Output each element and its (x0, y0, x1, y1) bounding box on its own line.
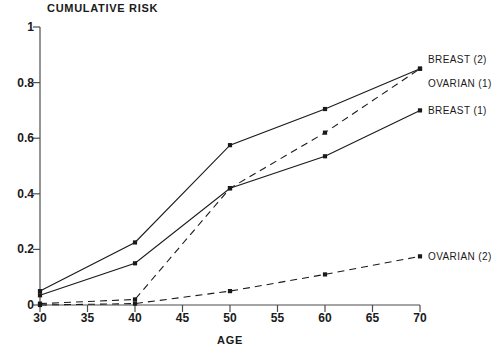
axes (33, 27, 420, 312)
data-point-marker (228, 289, 232, 293)
y-tick-label: 0.2 (0, 242, 34, 256)
y-tick-label: 0.8 (0, 76, 34, 90)
chart-figure: CUMULATIVE RISK 00.20.40.60.81 303540455… (0, 0, 499, 356)
data-point-marker (133, 240, 137, 244)
data-point-marker (38, 293, 42, 297)
x-tick-label: 35 (68, 311, 108, 325)
x-tick-label: 40 (115, 311, 155, 325)
y-tick-label: 0 (0, 298, 34, 312)
data-point-marker (133, 302, 137, 306)
data-point-marker (133, 297, 137, 301)
y-tick-label: 1 (0, 20, 34, 34)
data-point-marker (323, 154, 327, 158)
data-point-marker (323, 272, 327, 276)
data-point-marker (418, 254, 422, 258)
data-point-marker (418, 108, 422, 112)
data-point-marker (228, 143, 232, 147)
y-tick-label: 0.6 (0, 131, 34, 145)
series-line (40, 69, 420, 291)
x-tick-label: 30 (20, 311, 60, 325)
x-tick-label: 45 (163, 311, 203, 325)
data-point-marker (133, 261, 137, 265)
data-point-marker (228, 186, 232, 190)
y-tick-label: 0.4 (0, 187, 34, 201)
x-tick-label: 50 (210, 311, 250, 325)
data-point-marker (323, 107, 327, 111)
series-label-ovarian-2: OVARIAN (2) (428, 251, 492, 262)
series-markers (38, 67, 422, 308)
data-point-marker (38, 303, 42, 307)
x-tick-label: 70 (400, 311, 440, 325)
data-point-marker (38, 289, 42, 293)
x-tick-label: 65 (353, 311, 393, 325)
data-point-marker (323, 131, 327, 135)
series-line (40, 256, 420, 305)
x-tick-label: 55 (258, 311, 298, 325)
plot-area (0, 0, 499, 356)
data-point-marker (418, 67, 422, 71)
y-axis-ticks (33, 27, 40, 305)
x-tick-label: 60 (305, 311, 345, 325)
series-label-breast-1: BREAST (1) (428, 105, 487, 116)
x-axis-label: AGE (0, 334, 460, 346)
series-label-ovarian-1: OVARIAN (1) (428, 77, 492, 88)
series-label-breast-2: BREAST (2) (428, 53, 487, 64)
